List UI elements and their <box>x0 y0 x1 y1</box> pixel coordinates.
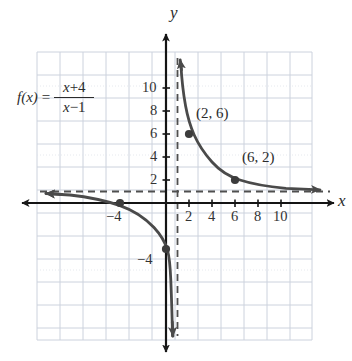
denominator-operator: − <box>70 99 78 115</box>
fraction-numerator: x+4 <box>61 79 88 97</box>
y-tick-10: 10 <box>142 80 157 95</box>
fraction-denominator: x−1 <box>61 98 88 116</box>
x-tick-10: 10 <box>273 209 288 224</box>
point-6-2 <box>231 176 239 184</box>
point-label-6-2: (6, 2) <box>242 150 275 165</box>
equals-sign: = <box>42 89 50 106</box>
y-tick-neg4: −4 <box>137 252 152 267</box>
coordinate-plane <box>0 0 352 361</box>
graph-figure: f(x) = x+4 x−1 y x 10 8 6 4 2 −4 2 4 6 8… <box>0 0 352 361</box>
curve-left-branch-down-arrow <box>172 322 173 336</box>
y-tick-4: 4 <box>150 149 157 164</box>
point-2-6 <box>185 130 193 138</box>
x-tick-8: 8 <box>254 209 261 224</box>
numerator-constant: 4 <box>78 79 86 95</box>
curve-right-branch <box>181 63 320 190</box>
x-tick-neg4: −4 <box>106 209 121 224</box>
point-label-2-6: (2, 6) <box>196 106 229 121</box>
y-axis-label: y <box>170 4 178 21</box>
x-tick-4: 4 <box>208 209 215 224</box>
function-name: f(x) <box>17 89 38 106</box>
y-tick-8: 8 <box>150 103 157 118</box>
curve-left-branch-left-arrow <box>46 193 62 194</box>
function-expression: f(x) = x+4 x−1 <box>17 79 94 116</box>
fraction: x+4 x−1 <box>54 79 94 116</box>
x-tick-2: 2 <box>185 209 192 224</box>
curve-right-branch-up-arrow <box>180 60 181 70</box>
y-tick-6: 6 <box>150 126 157 141</box>
denominator-constant: 1 <box>78 99 86 115</box>
y-intercept-point <box>162 245 170 253</box>
y-tick-2: 2 <box>150 172 157 187</box>
x-axis-label: x <box>338 192 346 209</box>
numerator-operator: + <box>70 79 78 95</box>
x-intercept-point <box>116 199 124 207</box>
x-tick-6: 6 <box>231 209 238 224</box>
